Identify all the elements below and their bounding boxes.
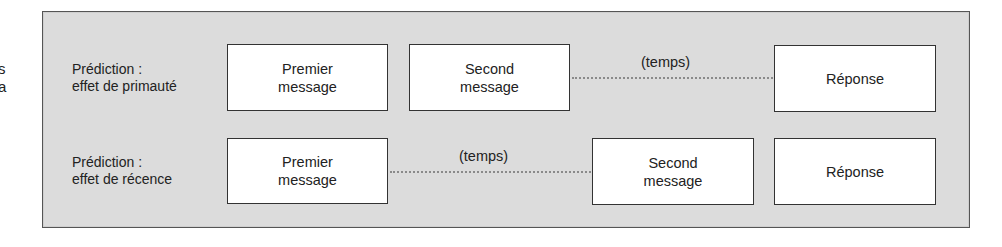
row-recence-response-box: Réponse (774, 138, 936, 205)
label-line-2: effet de récence (72, 171, 172, 188)
row-recence-time-dotted-line (390, 171, 591, 173)
box-line-2: message (278, 171, 337, 189)
box-line-2: message (644, 172, 703, 190)
label-line-1: Prédiction : (72, 154, 172, 171)
row-primaute-first-message-box: Premier message (227, 44, 388, 111)
box-line-1: Second (460, 60, 519, 78)
row-primaute-label: Prédiction : effet de primauté (72, 61, 177, 95)
box-line-1: Premier (278, 153, 337, 171)
row-primaute-time-dotted-line (572, 77, 773, 79)
label-line-2: effet de primauté (72, 78, 177, 95)
box-line-2: message (278, 78, 337, 96)
row-recence-first-message-box: Premier message (227, 138, 388, 204)
row-primaute-response-box: Réponse (774, 45, 936, 112)
box-line-2: message (460, 78, 519, 96)
box-line-1: Réponse (826, 70, 884, 88)
box-line-1: Second (644, 154, 703, 172)
row-primaute-time-label: (temps) (641, 54, 690, 70)
box-line-1: Réponse (826, 163, 884, 181)
row-primaute-second-message-box: Second message (409, 44, 570, 111)
label-line-1: Prédiction : (72, 61, 177, 78)
edge-fragment-1: s (0, 60, 6, 77)
row-recence-label: Prédiction : effet de récence (72, 154, 172, 188)
row-recence-second-message-box: Second message (592, 138, 754, 205)
row-recence-time-label: (temps) (459, 148, 508, 164)
box-line-1: Premier (278, 60, 337, 78)
edge-fragment-2: a (0, 78, 6, 95)
